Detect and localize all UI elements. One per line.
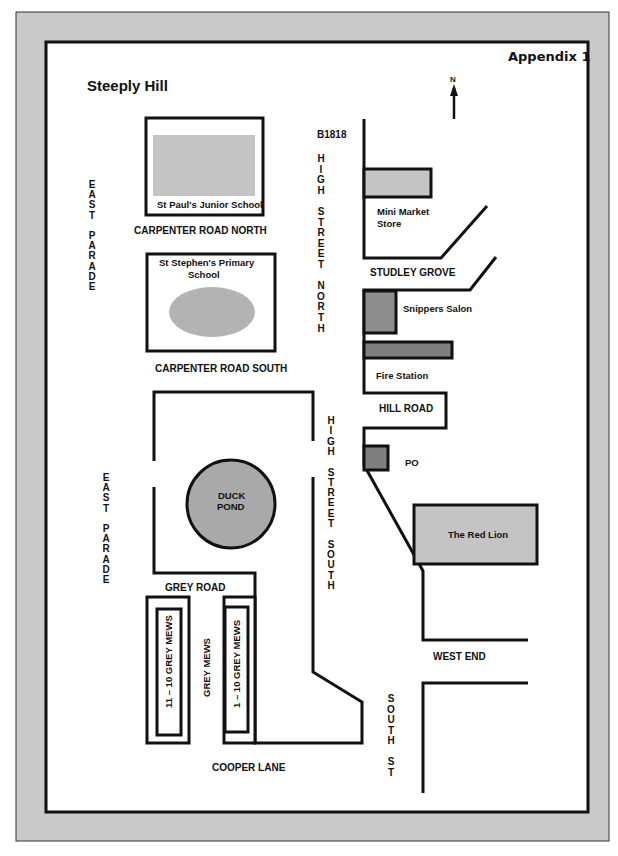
svg-text:School: School [188,269,220,280]
south-st-label: SOUTHST [387,693,395,778]
carpenter-road-south-label: CARPENTER ROAD SOUTH [155,363,287,374]
carpenter-road-north-label: CARPENTER ROAD NORTH [134,225,267,236]
svg-text:G: G [317,174,325,185]
mini-market-store [364,169,431,197]
high-street-north-label: HIGHSTREETNORTH [317,153,325,334]
svg-text:E: E [89,281,96,292]
svg-text:St Paul's Junior School: St Paul's Junior School [157,199,263,210]
st-stephens-primary-school: St Stephen's Primary School [147,254,275,351]
svg-text:S: S [388,756,395,767]
svg-text:N: N [450,75,456,84]
svg-text:T: T [328,518,334,529]
svg-text:R: R [317,301,325,312]
svg-text:T: T [103,503,109,514]
duck-pond-label: DUCK [218,490,246,501]
grey-road-label: GREY ROAD [165,582,225,593]
svg-text:1 – 10 GREY MEWS: 1 – 10 GREY MEWS [231,620,242,708]
svg-text:T: T [388,767,394,778]
grey-mews-11-10: 11 – 10 GREY MEWS [147,597,189,743]
b1818-label: B1818 [317,129,347,140]
svg-text:T: T [388,725,394,736]
appendix-label: Appendix 1 [508,49,590,64]
steeply-hill-map: Appendix 1 Steeply Hill N St Paul's Juni… [0,0,618,856]
svg-text:S: S [388,693,395,704]
mini-market-label: Mini Market [377,206,430,217]
grey-mews-label: GREY MEWS [201,638,212,697]
map-title: Steeply Hill [87,77,168,94]
svg-text:T: T [318,259,324,270]
snippers-salon-label: Snippers Salon [403,303,472,314]
post-office [364,446,388,470]
svg-text:T: T [89,210,95,221]
post-office-label: PO [405,457,419,468]
svg-text:H: H [317,185,324,196]
svg-text:11 – 10 GREY MEWS: 11 – 10 GREY MEWS [163,615,174,708]
west-end-label: WEST END [433,651,486,662]
svg-text:O: O [387,704,395,715]
svg-text:St Stephen's Primary: St Stephen's Primary [159,257,255,268]
svg-text:T: T [318,312,324,323]
svg-text:H: H [317,153,324,164]
svg-text:E: E [318,248,325,259]
svg-text:H: H [317,323,324,334]
svg-text:O: O [317,291,325,302]
snippers-salon [364,291,396,333]
svg-text:N: N [317,280,324,291]
cooper-lane-label: COOPER LANE [212,762,286,773]
svg-text:S: S [318,206,325,217]
fire-station [364,342,452,358]
hill-road-label: HILL ROAD [379,403,433,414]
svg-text:H: H [327,446,334,457]
high-street-south-label: HIGHSTREETSOUTH [327,415,335,591]
svg-text:E: E [318,238,325,249]
svg-text:R: R [317,227,325,238]
svg-text:E: E [103,574,110,585]
svg-text:H: H [327,580,334,591]
svg-text:I: I [320,164,323,175]
mini-market-label-2: Store [377,218,401,229]
svg-text:T: T [318,217,324,228]
st-pauls-junior-school: St Paul's Junior School [146,118,263,215]
svg-text:H: H [387,735,394,746]
grey-mews-1-10: 1 – 10 GREY MEWS [224,597,255,743]
svg-text:U: U [387,714,394,725]
duck-pond-label-2: POND [217,501,245,512]
east-parade-south-label: EASTPARADE [102,472,110,585]
studley-grove-label: STUDLEY GROVE [370,267,456,278]
east-parade-north-label: EASTPARADE [88,179,96,292]
red-lion-label: The Red Lion [448,529,508,540]
fire-station-label: Fire Station [376,370,428,381]
